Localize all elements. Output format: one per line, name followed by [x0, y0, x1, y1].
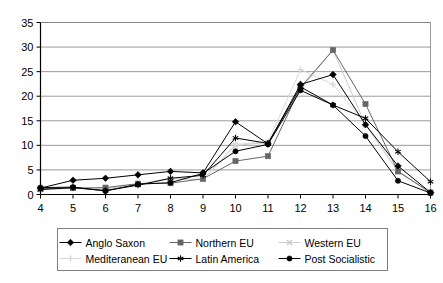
y-tick-label: 15 [21, 115, 33, 127]
data-point [330, 47, 335, 52]
legend-label: Northern EU [196, 237, 254, 249]
x-tick-label: 14 [359, 202, 371, 214]
data-point [395, 178, 400, 183]
data-point [330, 102, 335, 107]
x-tick-label: 6 [102, 202, 108, 214]
data-point [70, 185, 75, 190]
legend-label: Anglo Saxon [86, 237, 146, 249]
y-tick-label: 5 [27, 164, 33, 176]
plot-background [41, 23, 431, 195]
x-tick-label: 9 [200, 202, 206, 214]
data-point [135, 182, 140, 187]
data-point [103, 188, 108, 193]
line-chart: 0510152025303545678910111213141516Anglo … [0, 0, 443, 283]
x-axis: 45678910111213141516 [37, 195, 436, 214]
x-tick-label: 10 [229, 202, 241, 214]
y-tick-label: 0 [27, 189, 33, 201]
x-tick-label: 11 [262, 202, 273, 214]
x-tick-label: 7 [135, 202, 141, 214]
legend-marker-square-icon [178, 240, 183, 245]
y-tick-label: 10 [21, 139, 33, 151]
y-tick-label: 30 [21, 41, 33, 53]
legend-label: Mediteranean EU [86, 253, 168, 265]
y-tick-label: 20 [21, 90, 33, 102]
x-tick-label: 13 [327, 202, 339, 214]
data-point [363, 101, 368, 106]
x-tick-label: 8 [167, 202, 173, 214]
x-tick-label: 16 [424, 202, 436, 214]
legend: Anglo SaxonNorthern EUWestern EUMeditera… [58, 229, 388, 271]
legend-label: Post Socialistic [305, 253, 376, 265]
y-tick-label: 25 [21, 66, 33, 78]
data-point [233, 149, 238, 154]
x-tick-label: 15 [392, 202, 404, 214]
y-axis: 05101520253035 [21, 17, 40, 201]
legend-marker-circle-icon [287, 256, 292, 261]
y-tick-label: 35 [21, 17, 33, 29]
data-point [265, 154, 270, 159]
chart-container: 0510152025303545678910111213141516Anglo … [0, 0, 443, 283]
data-point [363, 133, 368, 138]
x-tick-label: 5 [70, 202, 76, 214]
data-point [233, 158, 238, 163]
legend-label: Latin America [196, 253, 260, 265]
x-tick-label: 4 [37, 202, 43, 214]
data-point [168, 180, 173, 185]
legend-label: Western EU [305, 237, 361, 249]
x-tick-label: 12 [294, 202, 306, 214]
